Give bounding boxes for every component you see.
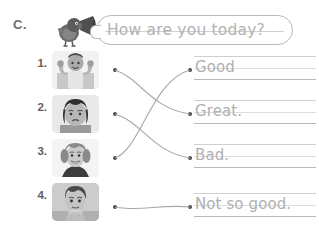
match-dot-right-4[interactable] <box>188 205 192 209</box>
match-line-4-to-notsogood <box>115 206 190 208</box>
match-line-3-to-good <box>115 70 190 158</box>
photo-girl-sad[interactable] <box>52 95 99 133</box>
answer-line-not-so-good: Not so good. <box>194 193 316 219</box>
match-dot-right-2[interactable] <box>188 112 192 116</box>
photo-child-flexing-muscles[interactable] <box>52 51 99 89</box>
match-dot-left-1[interactable] <box>113 68 117 72</box>
answer-line-bad: Bad. <box>194 144 316 170</box>
answer-text-great: Great. <box>195 99 242 124</box>
item-number-1: 1. <box>31 57 47 69</box>
match-dot-left-3[interactable] <box>113 156 117 160</box>
match-dot-right-3[interactable] <box>188 156 192 160</box>
match-line-1-to-great <box>115 70 190 114</box>
item-number-2: 2. <box>31 101 47 113</box>
prompt-text: How are you today? <box>107 19 286 42</box>
answer-text-good: Good <box>195 55 235 80</box>
photo-girl-smiling[interactable] <box>52 139 99 177</box>
match-dot-right-1[interactable] <box>188 68 192 72</box>
answer-text-not-so-good: Not so good. <box>195 192 291 217</box>
speech-bubble-tail <box>90 25 101 39</box>
match-line-2-to-bad <box>115 114 190 158</box>
prompt-speech-bubble: How are you today? <box>96 15 293 45</box>
section-label: C. <box>13 17 27 32</box>
worksheet-page: C. How are you today? 1. 2. 3. 4. <box>0 0 319 242</box>
photo-child-chin-on-hands[interactable] <box>52 183 99 221</box>
answer-line-great: Great. <box>194 100 316 126</box>
item-number-3: 3. <box>31 145 47 157</box>
match-dot-left-4[interactable] <box>113 205 117 209</box>
answer-line-good: Good <box>194 56 316 82</box>
match-dot-left-2[interactable] <box>113 112 117 116</box>
item-number-4: 4. <box>31 189 47 201</box>
answer-text-bad: Bad. <box>195 143 229 168</box>
